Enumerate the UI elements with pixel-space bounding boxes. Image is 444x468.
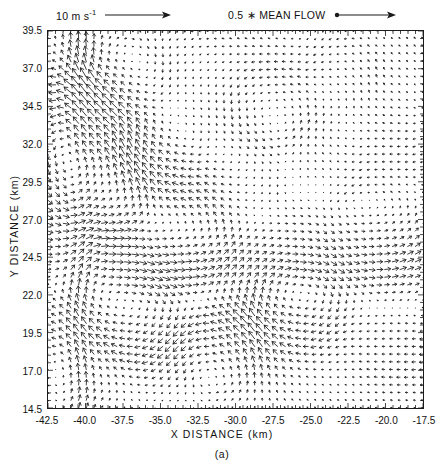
vector-arrow xyxy=(154,400,155,401)
vector-arrow xyxy=(201,236,203,238)
vector-arrow xyxy=(278,215,279,216)
vector-arrow xyxy=(299,391,300,392)
vector-arrow xyxy=(176,145,178,147)
vector-arrow xyxy=(94,86,101,93)
vector-arrow xyxy=(383,75,384,77)
vector-arrow xyxy=(91,55,95,62)
vector-arrow xyxy=(74,332,79,339)
vector-arrow xyxy=(247,265,251,269)
vector-arrow xyxy=(360,169,362,170)
vector-arrow xyxy=(301,246,305,249)
vector-arrow xyxy=(345,53,347,54)
vector-arrow xyxy=(201,123,202,124)
vector-arrow xyxy=(289,313,293,315)
vector-arrow xyxy=(301,238,305,240)
vector-arrow-calm xyxy=(361,200,362,201)
vector-arrow xyxy=(369,215,371,216)
vector-arrow xyxy=(262,251,266,254)
vector-arrow xyxy=(170,238,173,240)
vector-arrow xyxy=(299,376,301,377)
vector-arrow xyxy=(63,229,69,232)
vector-arrow xyxy=(383,99,384,100)
vector-arrow xyxy=(101,36,103,39)
vector-arrow xyxy=(360,177,362,178)
vector-arrow xyxy=(255,139,258,141)
vector-arrow xyxy=(368,60,369,62)
vector-arrow xyxy=(415,236,419,239)
vector-arrow xyxy=(170,260,176,264)
vector-arrow xyxy=(102,252,108,256)
vector-arrow xyxy=(147,400,148,401)
vector-arrow xyxy=(331,239,335,242)
vector-arrow xyxy=(232,139,233,141)
vector-arrow xyxy=(63,222,69,226)
vector-arrow xyxy=(316,231,319,233)
vector-arrow xyxy=(206,168,209,170)
vector-arrow xyxy=(234,334,239,339)
vector-arrow xyxy=(249,331,255,338)
vector-arrow xyxy=(278,146,280,147)
vector-arrow xyxy=(108,383,109,385)
vector-arrow xyxy=(282,359,285,362)
vector-arrow xyxy=(314,376,316,377)
vector-arrow xyxy=(76,363,80,369)
vector-arrow xyxy=(102,283,105,285)
vector-arrow xyxy=(140,212,143,216)
vector-arrow xyxy=(330,169,331,170)
vector-arrow xyxy=(224,265,229,270)
vector-arrow xyxy=(276,391,277,393)
y-tick-label: 27.0 xyxy=(23,214,42,225)
vector-arrow xyxy=(132,400,133,401)
vector-arrow xyxy=(94,101,102,108)
vector-arrow xyxy=(79,249,84,254)
vector-arrow xyxy=(270,230,272,231)
vector-arrow xyxy=(140,31,141,32)
vector-arrow xyxy=(383,67,384,69)
vector-arrow xyxy=(163,293,168,296)
vector-arrow xyxy=(353,68,354,69)
vector-arrow xyxy=(169,385,171,387)
vector-arrow xyxy=(155,269,162,273)
vector-arrow xyxy=(330,69,332,70)
vector-arrow xyxy=(408,275,413,278)
vector-arrow xyxy=(352,161,354,162)
vector-arrow xyxy=(308,144,309,146)
vector-arrow xyxy=(278,245,282,247)
vector-arrow xyxy=(336,346,339,348)
vector-arrow xyxy=(162,31,163,33)
vector-arrow xyxy=(408,251,413,254)
vector-arrow xyxy=(208,146,209,147)
vector-arrow xyxy=(143,155,148,162)
vector-arrow xyxy=(63,274,65,277)
vector-arrow xyxy=(209,251,214,254)
vector-arrow xyxy=(96,335,102,339)
vector-arrow xyxy=(83,149,86,154)
vector-arrow xyxy=(319,323,323,325)
vector-arrow xyxy=(299,399,300,400)
vector-arrow xyxy=(74,324,79,331)
vector-arrow xyxy=(108,182,110,185)
vector-arrow xyxy=(346,269,352,272)
vector-arrow xyxy=(338,200,339,202)
vector-arrow xyxy=(166,331,170,336)
vector-arrow xyxy=(293,284,296,286)
vector-arrow xyxy=(238,85,240,87)
vector-arrow xyxy=(66,326,71,331)
vector-arrow xyxy=(270,273,275,277)
vector-arrow xyxy=(75,340,79,347)
vector-arrow xyxy=(353,91,354,93)
vector-arrow xyxy=(147,293,151,296)
vector-arrow xyxy=(301,223,304,225)
vector-arrow xyxy=(183,362,186,366)
vector-arrow xyxy=(315,169,316,170)
vector-arrow xyxy=(201,131,202,133)
vector-arrow xyxy=(246,287,249,292)
vector-arrow xyxy=(216,281,220,284)
vector-arrow xyxy=(277,200,278,201)
vector-arrow xyxy=(176,377,178,380)
vector-arrow xyxy=(404,376,407,378)
vector-arrow xyxy=(375,138,377,139)
vector-arrow xyxy=(196,330,201,333)
vector-arrow xyxy=(354,208,355,209)
vector-arrow xyxy=(247,236,249,239)
